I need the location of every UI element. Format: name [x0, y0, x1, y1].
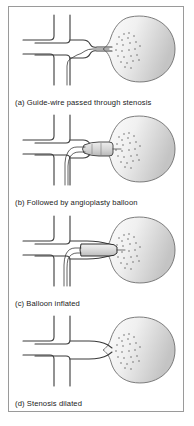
- panel-b-caption: (b) Followed by angioplasty balloon: [15, 198, 138, 207]
- angioplasty-balloon-inflated: [80, 244, 117, 256]
- angioplasty-balloon-deflated: [83, 142, 114, 156]
- aorta-vessel: [35, 216, 70, 286]
- panel-d-illustration: [9, 310, 183, 390]
- panel-b-illustration: [9, 109, 183, 189]
- balloon-catheter-shaft: [64, 248, 81, 286]
- panel-a-illustration: [9, 9, 183, 89]
- left-branch-vessel: [23, 216, 54, 286]
- left-branch-vessel: [23, 316, 54, 386]
- balloon-catheter-shaft: [65, 147, 85, 185]
- kidney-shape: [103, 16, 175, 82]
- panel-c-illustration: [9, 210, 183, 290]
- panel-c-caption: (c) Balloon inflated: [15, 299, 80, 308]
- figure-border-frame: (a) Guide-wire passed through stenosis: [8, 6, 184, 412]
- guide-wire: [67, 49, 109, 85]
- panel-a-caption: (a) Guide-wire passed through stenosis: [15, 98, 151, 107]
- left-branch-vessel: [23, 115, 54, 185]
- aorta-vessel: [35, 15, 70, 85]
- panel-d: (d) Stenosis dilated: [9, 310, 183, 410]
- aorta-vessel: [35, 316, 70, 386]
- kidney-shape: [103, 317, 175, 383]
- panel-b: (b) Followed by angioplasty balloon: [9, 109, 183, 209]
- panel-d-caption: (d) Stenosis dilated: [15, 399, 82, 408]
- left-branch-vessel: [23, 15, 54, 85]
- panel-c: (c) Balloon inflated: [9, 210, 183, 310]
- panel-a: (a) Guide-wire passed through stenosis: [9, 9, 183, 109]
